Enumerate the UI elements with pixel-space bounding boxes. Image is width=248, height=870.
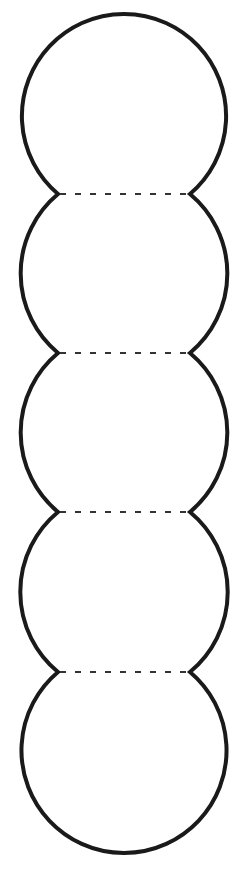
circle-chain-outline	[20, 14, 227, 853]
fold-lines	[60, 194, 188, 672]
circle-chain-diagram	[0, 0, 248, 870]
